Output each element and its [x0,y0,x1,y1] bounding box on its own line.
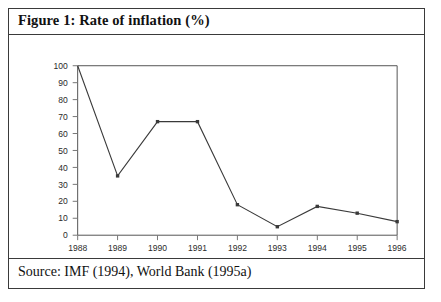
data-point-marker [276,225,279,228]
data-point-marker [316,205,319,208]
plot-frame [78,66,397,235]
y-tick-label: 20 [58,196,68,206]
x-tick-label: 1992 [228,243,247,253]
series-line [78,66,397,227]
figure-container: Figure 1: Rate of inflation (%) [8,8,425,289]
data-point-marker [236,203,239,206]
x-tick-label: 1990 [148,243,167,253]
inflation-line-chart: 100 90 80 70 60 50 40 30 20 10 0 [9,35,424,258]
data-point-marker [156,120,159,123]
x-axis-tick-labels: 1988 1989 1990 1991 1992 1993 1994 1995 … [68,243,407,253]
x-tick-label: 1996 [388,243,407,253]
data-point-marker [116,174,119,177]
x-axis-ticks [78,235,397,240]
x-tick-label: 1991 [188,243,207,253]
y-tick-label: 0 [63,230,68,240]
series-markers [116,120,399,228]
data-series-group [78,66,399,229]
y-tick-label: 10 [58,213,68,223]
figure-source-text: Source: IMF (1994), World Bank (1995a) [18,264,251,280]
y-axis-tick-labels: 100 90 80 70 60 50 40 30 20 10 0 [53,61,68,240]
y-tick-label: 80 [58,95,68,105]
y-tick-label: 60 [58,129,68,139]
y-tick-label: 40 [58,163,68,173]
y-tick-label: 100 [53,61,68,71]
x-tick-label: 1989 [108,243,127,253]
x-tick-label: 1994 [308,243,327,253]
data-point-marker [356,211,359,214]
x-tick-label: 1995 [348,243,367,253]
data-point-marker [196,120,199,123]
y-tick-label: 90 [58,78,68,88]
figure-source-band: Source: IMF (1994), World Bank (1995a) [9,258,424,288]
y-tick-label: 30 [58,180,68,190]
chart-area: 100 90 80 70 60 50 40 30 20 10 0 [9,35,424,258]
figure-title-band: Figure 1: Rate of inflation (%) [9,9,424,35]
y-axis-ticks [73,66,78,235]
y-tick-label: 50 [58,146,68,156]
y-tick-label: 70 [58,112,68,122]
x-tick-label: 1993 [268,243,287,253]
x-tick-label: 1988 [68,243,87,253]
data-point-marker [395,220,398,223]
page-title: Figure 1: Rate of inflation (%) [18,12,210,29]
